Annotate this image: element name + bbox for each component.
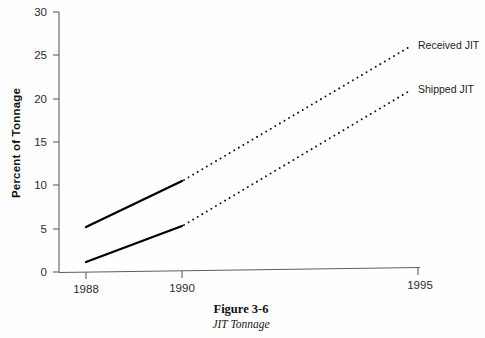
y-tick-label-10: 10 bbox=[34, 179, 47, 191]
received-jit-label: Received JIT bbox=[418, 39, 480, 51]
y-axis-group: 30 25 20 15 10 5 0 Percent of Tonnage bbox=[10, 6, 59, 278]
series-shipped-jit: Shipped JIT bbox=[86, 83, 475, 262]
shipped-jit-dotted-segment bbox=[184, 90, 411, 225]
figure-container: 30 25 20 15 10 5 0 Percent of Tonnage 19… bbox=[0, 0, 485, 338]
shipped-jit-solid-segment bbox=[86, 226, 182, 262]
y-tick-label-5: 5 bbox=[41, 223, 47, 235]
caption-subtitle: JIT Tonnage bbox=[212, 318, 269, 331]
y-tick-label-30: 30 bbox=[34, 6, 47, 18]
x-tick-label-1988: 1988 bbox=[73, 283, 99, 295]
x-tick-label-1990: 1990 bbox=[169, 282, 195, 294]
y-tick-label-15: 15 bbox=[34, 136, 47, 148]
x-tick-label-1995: 1995 bbox=[407, 279, 433, 291]
y-tick-label-0: 0 bbox=[41, 266, 47, 278]
caption-title: Figure 3-6 bbox=[214, 302, 269, 316]
x-axis-line bbox=[59, 268, 420, 273]
series-received-jit: Received JIT bbox=[86, 39, 480, 227]
y-tick-label-25: 25 bbox=[34, 49, 47, 61]
x-axis-group: 1988 1990 1995 bbox=[59, 268, 433, 296]
received-jit-solid-segment bbox=[86, 181, 182, 227]
y-tick-label-20: 20 bbox=[34, 93, 47, 105]
jit-tonnage-chart: 30 25 20 15 10 5 0 Percent of Tonnage 19… bbox=[0, 0, 485, 338]
figure-caption: Figure 3-6 JIT Tonnage bbox=[212, 302, 269, 331]
y-axis-title: Percent of Tonnage bbox=[10, 88, 22, 198]
received-jit-dotted-segment bbox=[184, 46, 411, 180]
shipped-jit-label: Shipped JIT bbox=[418, 83, 475, 95]
